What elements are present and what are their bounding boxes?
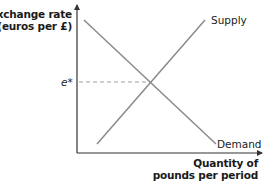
supply-curve	[97, 20, 205, 144]
equilibrium-label: e*	[61, 76, 73, 88]
y-axis-label: Exchange rate (euros per £)	[0, 8, 72, 32]
x-axis-label-line1: Quantity of	[153, 157, 258, 169]
supply-label: Supply	[211, 14, 247, 26]
y-axis-label-line1: Exchange rate	[0, 8, 72, 20]
y-axis-label-line2: (euros per £)	[0, 20, 72, 32]
x-axis-label: Quantity of pounds per period	[153, 157, 258, 181]
demand-label: Demand	[217, 138, 262, 150]
x-axis-label-line2: pounds per period	[153, 169, 258, 181]
